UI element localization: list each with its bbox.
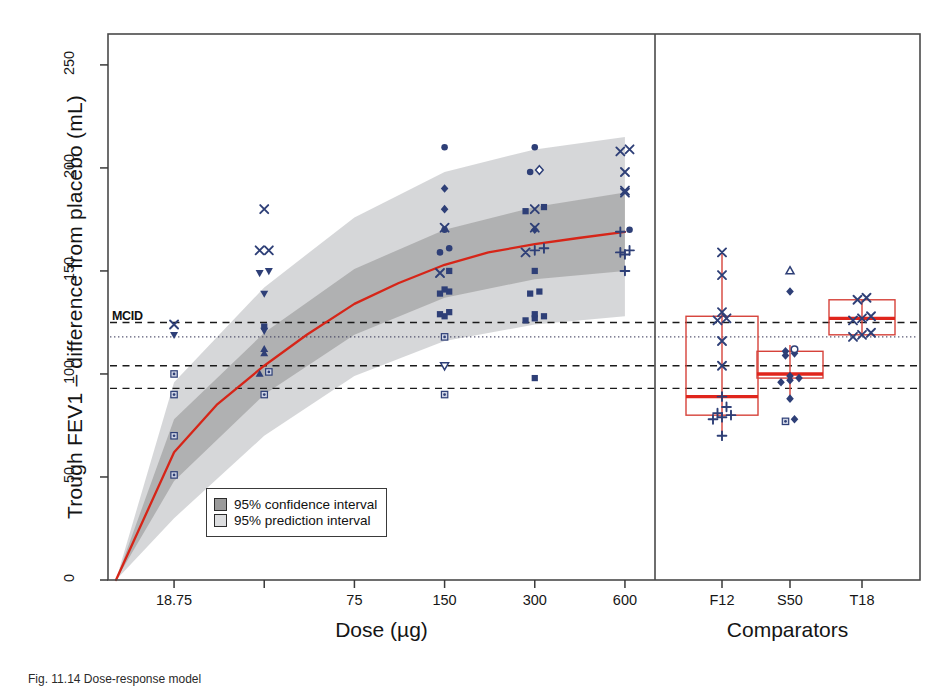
data-point-square [446, 309, 452, 315]
y-tick-label-100: 100 [61, 349, 77, 395]
data-point-square-dot [266, 369, 272, 375]
data-point-square [532, 311, 538, 317]
x-tick-label-600: 600 [590, 592, 660, 608]
comparator-tick-label-S50: S50 [755, 592, 825, 608]
y-tick-label-200: 200 [61, 143, 77, 189]
legend-swatch-confidence-interval [214, 498, 227, 511]
data-point-square-dot [782, 418, 788, 424]
data-point-square-dot [441, 391, 447, 397]
data-point-plus [709, 415, 718, 424]
data-point-plus [718, 392, 727, 401]
data-point-plus [722, 403, 731, 412]
x-tick-label-150: 150 [410, 592, 480, 608]
data-point-diamond [777, 378, 785, 387]
data-point-x [863, 294, 871, 302]
y-tick-label-50: 50 [61, 452, 77, 498]
data-point-square-dot [261, 391, 267, 397]
data-point-plus [718, 431, 727, 440]
data-point-square [261, 323, 267, 329]
data-point-square [541, 204, 547, 210]
x-axis-title-dose: Dose (µg) [108, 618, 655, 642]
figure-caption: Fig. 11.14 Dose-response model [28, 672, 628, 686]
legend-entry-prediction: 95% prediction interval [214, 513, 377, 528]
data-point-plus [625, 246, 634, 255]
y-tick-label-150: 150 [61, 246, 77, 292]
data-point-plus [713, 409, 722, 418]
data-point-circle [437, 249, 444, 256]
data-point-circle [626, 226, 633, 233]
data-point-square [441, 286, 447, 292]
data-point-x [260, 205, 268, 213]
x-tick-label-300: 300 [500, 592, 570, 608]
data-point-circle [527, 169, 534, 176]
data-point-x [170, 321, 178, 329]
mcid-annotation-label: MCID [112, 309, 143, 323]
data-point-circle [446, 245, 453, 252]
comparator-tick-label-T18: T18 [827, 592, 897, 608]
data-point-square [437, 311, 443, 317]
data-point-square [532, 268, 538, 274]
data-point-triangle-down-open [441, 363, 449, 370]
y-tick-label-250: 250 [61, 40, 77, 86]
data-point-square [527, 290, 533, 296]
data-point-plus [718, 413, 727, 422]
data-point-square-dot [171, 433, 177, 439]
data-point-plus [727, 411, 736, 420]
data-point-diamond [786, 287, 794, 296]
data-point-triangle-down [170, 332, 178, 339]
data-point-square [541, 313, 547, 319]
x-tick-label-75: 75 [319, 592, 389, 608]
data-point-x [256, 246, 264, 254]
data-point-square-dot [171, 472, 177, 478]
data-point-diamond [791, 415, 799, 424]
data-point-triangle-down [256, 270, 264, 277]
data-point-square [446, 268, 452, 274]
data-point-circle [531, 144, 538, 151]
data-point-circle-open [791, 346, 798, 353]
data-point-triangle-down [265, 268, 273, 275]
data-point-diamond [786, 394, 794, 403]
data-point-square-dot [171, 391, 177, 397]
legend-label-confidence-interval: 95% confidence interval [234, 497, 377, 512]
data-point-x [626, 145, 634, 153]
data-point-square-dot [171, 371, 177, 377]
legend-swatch-prediction-interval [214, 514, 227, 527]
data-point-x [867, 329, 875, 337]
data-point-circle [441, 144, 448, 151]
data-point-square [522, 317, 528, 323]
data-point-square [522, 208, 528, 214]
data-point-x [714, 316, 722, 324]
data-point-square [532, 375, 538, 381]
data-point-triangle-up-open [786, 267, 794, 274]
boxplot-F12 [686, 252, 758, 435]
data-point-square-dot [441, 334, 447, 340]
y-tick-label-0: 0 [61, 555, 77, 601]
comparator-tick-label-F12: F12 [687, 592, 757, 608]
data-point-square [536, 288, 542, 294]
legend: 95% confidence interval 95% prediction i… [206, 488, 387, 537]
data-point-x [265, 246, 273, 254]
x-axis-title-comparators: Comparators [655, 618, 920, 642]
x-tick-label-18.75: 18.75 [139, 592, 209, 608]
legend-entry-confidence: 95% confidence interval [214, 497, 377, 512]
legend-label-prediction-interval: 95% prediction interval [234, 513, 371, 528]
